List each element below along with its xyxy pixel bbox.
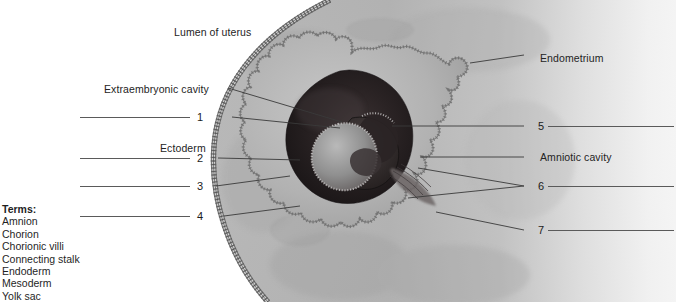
term-item-endoderm: Endoderm bbox=[2, 265, 80, 277]
label-endometrium: Endometrium bbox=[540, 52, 604, 64]
terms-word-bank: Terms: Amnion Chorion Chorionic villi Co… bbox=[2, 203, 80, 302]
answer-line-7[interactable] bbox=[548, 230, 674, 231]
callout-number-3: 3 bbox=[197, 180, 203, 192]
answer-line-1[interactable] bbox=[80, 117, 190, 118]
callout-number-1: 1 bbox=[197, 111, 203, 123]
callout-number-5: 5 bbox=[538, 120, 544, 132]
callout-number-2: 2 bbox=[197, 152, 203, 164]
callout-number-7: 7 bbox=[538, 224, 544, 236]
answer-line-2[interactable] bbox=[80, 158, 190, 159]
answer-line-6[interactable] bbox=[548, 186, 674, 187]
callout-number-6: 6 bbox=[538, 180, 544, 192]
label-lumen-of-uterus: Lumen of uterus bbox=[174, 26, 251, 38]
label-extraembryonic-cavity: Extraembryonic cavity bbox=[104, 83, 209, 95]
answer-line-5[interactable] bbox=[548, 126, 674, 127]
term-item-mesoderm: Mesoderm bbox=[2, 277, 80, 289]
term-item-connecting-stalk: Connecting stalk bbox=[2, 253, 80, 265]
terms-heading: Terms: bbox=[2, 203, 80, 215]
term-item-yolk-sac: Yolk sac bbox=[2, 290, 80, 302]
term-item-amnion: Amnion bbox=[2, 215, 80, 227]
figure-canvas: Lumen of uterus Extraembryonic cavity Ec… bbox=[0, 0, 676, 302]
term-item-chorion: Chorion bbox=[2, 228, 80, 240]
callout-number-4: 4 bbox=[197, 210, 203, 222]
term-item-chorionic-villi: Chorionic villi bbox=[2, 240, 80, 252]
label-amniotic-cavity: Amniotic cavity bbox=[540, 151, 612, 163]
answer-line-3[interactable] bbox=[80, 186, 190, 187]
answer-line-4[interactable] bbox=[80, 216, 190, 217]
